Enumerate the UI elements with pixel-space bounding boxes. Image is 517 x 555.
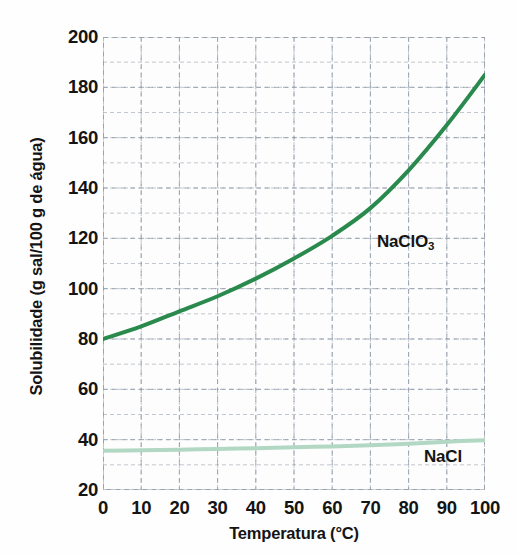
y-tick-label-180: 180 <box>40 76 98 98</box>
x-axis-tick-labels: 0102030405060708090100 <box>0 497 517 523</box>
series-label-naclo3: NaClO3 <box>377 232 434 252</box>
y-axis-tick-labels: 20406080100120140160180200 <box>40 0 98 555</box>
y-tick-label-80: 80 <box>40 328 98 350</box>
y-tick-label-160: 160 <box>40 127 98 149</box>
y-tick-label-100: 100 <box>40 278 98 300</box>
y-tick-label-200: 200 <box>40 26 98 48</box>
plot-svg <box>103 37 485 490</box>
y-tick-label-60: 60 <box>40 378 98 400</box>
series-label-nacl: NaCl <box>424 447 462 467</box>
y-tick-label-120: 120 <box>40 227 98 249</box>
y-tick-label-140: 140 <box>40 177 98 199</box>
solubility-chart-figure: Solubilidade (g sal/100 g de água) 20406… <box>0 0 517 555</box>
plot-area <box>103 37 485 490</box>
x-axis-title: Temperatura (°C) <box>103 524 485 543</box>
y-tick-label-40: 40 <box>40 429 98 451</box>
x-tick-label-100: 100 <box>462 497 508 519</box>
